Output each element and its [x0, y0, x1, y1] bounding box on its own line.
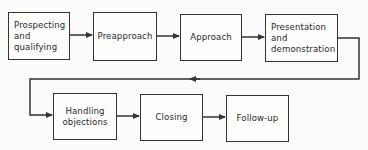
step-presentation-and-demonstration: Presentation and demonstration [265, 14, 338, 62]
step-prospecting-and-qualifying: Prospecting and qualifying [8, 12, 70, 60]
step-label: Follow-up [237, 113, 279, 124]
step-label: Presentation and demonstration [271, 22, 335, 55]
step-closing: Closing [140, 94, 203, 141]
step-approach: Approach [180, 14, 242, 61]
step-label: Handling objections [62, 106, 107, 128]
step-handling-objections: Handling objections [53, 93, 117, 140]
step-label: Preapproach [98, 31, 153, 42]
step-label: Closing [155, 112, 187, 123]
step-label: Prospecting and qualifying [14, 20, 65, 53]
step-label: Approach [190, 32, 232, 43]
step-follow-up: Follow-up [226, 95, 289, 142]
step-preapproach: Preapproach [93, 12, 157, 61]
